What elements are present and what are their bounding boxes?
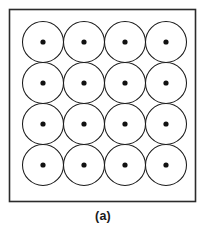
center-dot xyxy=(122,121,127,126)
center-dot xyxy=(163,39,168,44)
center-dot xyxy=(81,121,86,126)
center-dot xyxy=(163,80,168,85)
center-dot xyxy=(122,80,127,85)
figure-container: (a) xyxy=(0,0,206,234)
center-dot xyxy=(81,80,86,85)
center-dot xyxy=(40,39,45,44)
center-dot xyxy=(81,39,86,44)
center-dot xyxy=(40,121,45,126)
caption-row: (a) xyxy=(0,206,206,224)
circle-packing-diagram xyxy=(0,0,206,206)
center-dot xyxy=(163,162,168,167)
center-dot xyxy=(163,121,168,126)
center-dot xyxy=(40,162,45,167)
figure-caption: (a) xyxy=(95,209,111,223)
center-dot xyxy=(40,80,45,85)
center-dot xyxy=(81,162,86,167)
center-dot xyxy=(122,162,127,167)
center-dot xyxy=(122,39,127,44)
